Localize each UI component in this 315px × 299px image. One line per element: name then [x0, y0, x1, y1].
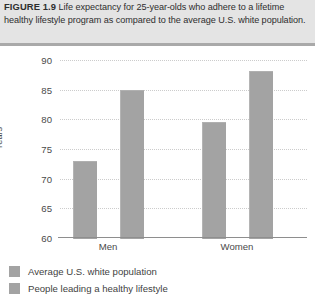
gridline	[60, 60, 307, 61]
bar	[120, 90, 144, 239]
figure-caption: FIGURE 1.9 Life expectancy for 25-year-o…	[4, 1, 311, 26]
y-axis-tick: 90	[0, 55, 52, 66]
bar	[249, 71, 273, 239]
legend-swatch	[9, 266, 20, 277]
y-axis-tick: 65	[0, 203, 52, 214]
legend-label: Average U.S. white population	[28, 266, 157, 277]
x-axis-line	[58, 237, 307, 238]
y-axis-tick: 70	[0, 173, 52, 184]
legend-item: Average U.S. white population	[9, 264, 168, 279]
legend-item: People leading a healthy lifestyle	[9, 281, 168, 296]
figure-caption-band: FIGURE 1.9 Life expectancy for 25-year-o…	[0, 0, 315, 46]
y-axis-tick: 60	[0, 233, 52, 244]
x-axis-tick: Men	[73, 241, 143, 252]
y-axis-tick: 75	[0, 144, 52, 155]
y-axis-tick: 80	[0, 114, 52, 125]
legend-swatch	[9, 283, 20, 294]
bar	[73, 161, 97, 239]
legend-label: People leading a healthy lifestyle	[28, 283, 168, 294]
bar	[202, 122, 226, 239]
figure-number-label: FIGURE 1.9	[4, 1, 56, 12]
chart-legend: Average U.S. white populationPeople lead…	[9, 264, 168, 298]
plot-area	[60, 60, 307, 238]
y-axis-tick: 85	[0, 84, 52, 95]
x-axis-tick: Women	[202, 241, 272, 252]
